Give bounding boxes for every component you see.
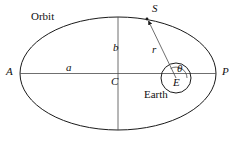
earth-label: Earth <box>144 89 168 100</box>
radius-label: r <box>152 44 156 55</box>
orbit-diagram: Orbit S A P a b C r θ E Earth <box>0 0 239 145</box>
satellite-label: S <box>152 3 158 14</box>
semi-minor-axis-label: b <box>113 42 119 53</box>
apogee-label: A <box>6 66 13 77</box>
orbit-label: Orbit <box>31 11 54 22</box>
satellite-point-marker <box>146 18 149 21</box>
center-label: C <box>111 76 118 87</box>
perigee-label: P <box>222 66 229 77</box>
earth-center-label: E <box>173 77 180 88</box>
true-anomaly-label: θ <box>177 63 182 74</box>
semi-major-axis-label: a <box>66 62 72 73</box>
